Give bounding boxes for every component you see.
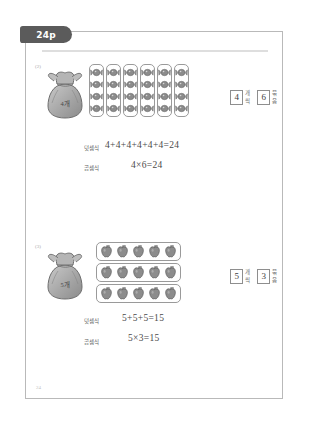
candy-icon [175, 91, 188, 102]
apple-icon [99, 286, 114, 301]
candy-icon [90, 103, 103, 114]
page-tab-label: 24p [36, 30, 56, 40]
addition-expression[interactable]: 4+4+4+4+4+4=24 [105, 140, 179, 150]
apple-row [96, 263, 181, 282]
bag-label: 4개 [44, 98, 86, 108]
candy-icon [141, 67, 154, 78]
answer-group-box[interactable]: 3 [257, 269, 270, 284]
apple-icon [115, 244, 130, 259]
bag-label: 5개 [44, 279, 86, 289]
candy-column [106, 64, 121, 117]
candy-icon [107, 91, 120, 102]
candy-icon [158, 91, 171, 102]
apple-icon [131, 244, 146, 259]
problem-number: (2) [35, 64, 41, 69]
candy-column [174, 64, 189, 117]
answer-count-unit: 개씩 [245, 89, 255, 105]
answer-row: 4 개씩 6 묶음 [230, 89, 282, 105]
apple-bag-illustration: 5개 [44, 248, 86, 300]
apple-icon [99, 244, 114, 259]
apple-icon [99, 265, 114, 280]
page-number: 24 [36, 385, 41, 390]
candy-icon [124, 79, 137, 90]
answer-count-box[interactable]: 4 [230, 90, 243, 105]
candy-column [157, 64, 172, 117]
candy-column [89, 64, 104, 117]
answer-row: 5 개씩 3 묶음 [230, 268, 282, 284]
apple-icon [131, 265, 146, 280]
apple-icon [147, 286, 162, 301]
candy-bag-illustration: 4개 [44, 67, 86, 119]
apple-icon [163, 286, 178, 301]
apple-icon [115, 265, 130, 280]
candy-column [123, 64, 138, 117]
candy-icon [107, 103, 120, 114]
multiplication-expression[interactable]: 4×6=24 [131, 160, 163, 170]
candy-icon [141, 103, 154, 114]
addition-label: 덧셈식 [84, 144, 99, 152]
candy-icon [141, 91, 154, 102]
apple-group-grid [96, 242, 181, 303]
multiplication-label: 곱셈식 [84, 338, 99, 346]
candy-icon [90, 67, 103, 78]
candy-icon [158, 67, 171, 78]
answer-group-unit: 묶음 [272, 89, 282, 105]
apple-icon [163, 244, 178, 259]
worksheet-page: (2) 4개 [25, 31, 283, 399]
candy-icon [124, 67, 137, 78]
answer-group-box[interactable]: 6 [257, 90, 270, 105]
candy-column [140, 64, 155, 117]
candy-icon [124, 91, 137, 102]
candy-icon [158, 103, 171, 114]
apple-icon [147, 265, 162, 280]
candy-icon [175, 67, 188, 78]
answer-count-unit: 개씩 [245, 268, 255, 284]
candy-icon [175, 79, 188, 90]
problem-number: (3) [35, 244, 41, 249]
addition-expression[interactable]: 5+5+5=15 [122, 313, 164, 323]
candy-icon [107, 67, 120, 78]
multiplication-label: 곱셈식 [84, 164, 99, 172]
page-tab[interactable]: 24p [20, 26, 72, 43]
apple-icon [115, 286, 130, 301]
apple-icon [131, 286, 146, 301]
apple-icon [163, 265, 178, 280]
candy-icon [90, 91, 103, 102]
candy-icon [141, 79, 154, 90]
candy-icon [158, 79, 171, 90]
candy-group-grid [89, 64, 189, 117]
answer-group-unit: 묶음 [272, 268, 282, 284]
apple-row [96, 284, 181, 303]
multiplication-expression[interactable]: 5×3=15 [128, 333, 160, 343]
addition-label: 덧셈식 [84, 317, 99, 325]
apple-row [96, 242, 181, 261]
candy-icon [107, 79, 120, 90]
apple-icon [147, 244, 162, 259]
page-divider-rule [42, 50, 268, 52]
candy-icon [90, 79, 103, 90]
answer-count-box[interactable]: 5 [230, 269, 243, 284]
candy-icon [175, 103, 188, 114]
candy-icon [124, 103, 137, 114]
